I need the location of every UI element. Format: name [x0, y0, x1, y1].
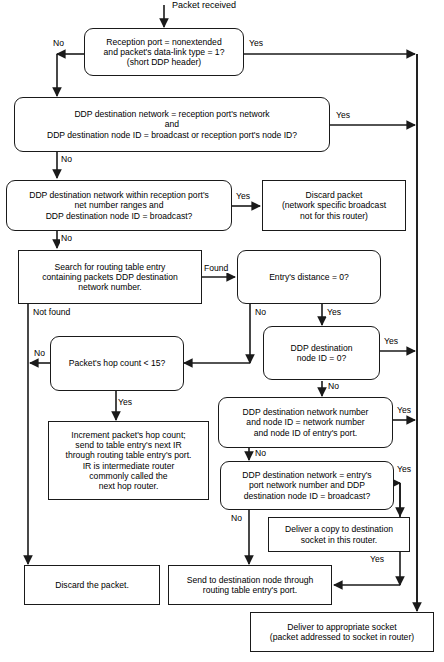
- edge-label-yes-1: Yes: [248, 39, 264, 48]
- edge-label-yes-9: Yes: [369, 555, 385, 564]
- flowchart-canvas: Packet received Reception port = nonexte…: [0, 0, 444, 662]
- edge-label-yes-4: Yes: [326, 308, 342, 317]
- node-network-and-node-match-check[interactable]: DDP destination network number and node …: [218, 397, 393, 448]
- edge-label-no-1: No: [52, 39, 65, 48]
- node-deliver-copy-local-socket[interactable]: Deliver a copy to destination socket in …: [268, 517, 410, 552]
- edge-label-yes-6: Yes: [117, 398, 133, 407]
- node-entry-distance-check[interactable]: Entry's distance = 0?: [237, 250, 381, 304]
- edge-label-yes-5: Yes: [383, 337, 399, 346]
- edge-label-not-found: Not found: [32, 308, 71, 317]
- node-port-network-broadcast-check[interactable]: DDP destination network = entry's port n…: [220, 461, 394, 510]
- edge-label-yes-3: Yes: [235, 192, 251, 201]
- edge-label-found: Found: [203, 264, 229, 273]
- edge-label-no-4: No: [254, 308, 267, 317]
- node-deliver-to-appropriate-socket[interactable]: Deliver to appropriate socket (packet ad…: [250, 612, 434, 652]
- edge-label-yes-8: Yes: [396, 465, 412, 474]
- node-discard-the-packet[interactable]: Discard the packet.: [24, 565, 160, 605]
- edge-label-no-6: No: [327, 382, 340, 391]
- node-hop-count-check[interactable]: Packet's hop count < 15?: [50, 336, 184, 391]
- edge-label-yes-2: Yes: [335, 111, 351, 120]
- edge-label-no-7: No: [254, 449, 267, 458]
- node-discard-packet-broadcast[interactable]: Discard packet (network specific broadca…: [262, 180, 406, 231]
- node-net-number-range-check[interactable]: DDP destination network within reception…: [6, 180, 232, 231]
- node-reception-port-check[interactable]: Reception port = nonextended and packet'…: [84, 28, 244, 76]
- node-increment-hop-count[interactable]: Increment packet's hop count; send to ta…: [48, 421, 209, 500]
- edge-label-no-8: No: [230, 514, 243, 523]
- node-ddp-network-node-check[interactable]: DDP destination network = reception port…: [14, 97, 330, 152]
- start-label: Packet received: [172, 1, 236, 10]
- edge-label-no-2: No: [60, 155, 73, 164]
- edge-label-no-3: No: [60, 234, 73, 243]
- edge-label-yes-7: Yes: [396, 406, 412, 415]
- node-send-to-destination-node[interactable]: Send to destination node through routing…: [168, 565, 332, 605]
- node-destination-node-id-zero-check[interactable]: DDP destination node ID = 0?: [263, 326, 380, 380]
- edge-label-no-5: No: [33, 349, 46, 358]
- node-search-routing-table[interactable]: Search for routing table entry containin…: [18, 250, 202, 304]
